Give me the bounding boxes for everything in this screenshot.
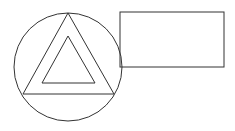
rectangle-shape [120,12,224,67]
circle-shape [14,13,122,121]
diagram-canvas [0,0,235,131]
outer-triangle-shape [23,13,114,94]
inner-triangle-shape [42,36,95,83]
